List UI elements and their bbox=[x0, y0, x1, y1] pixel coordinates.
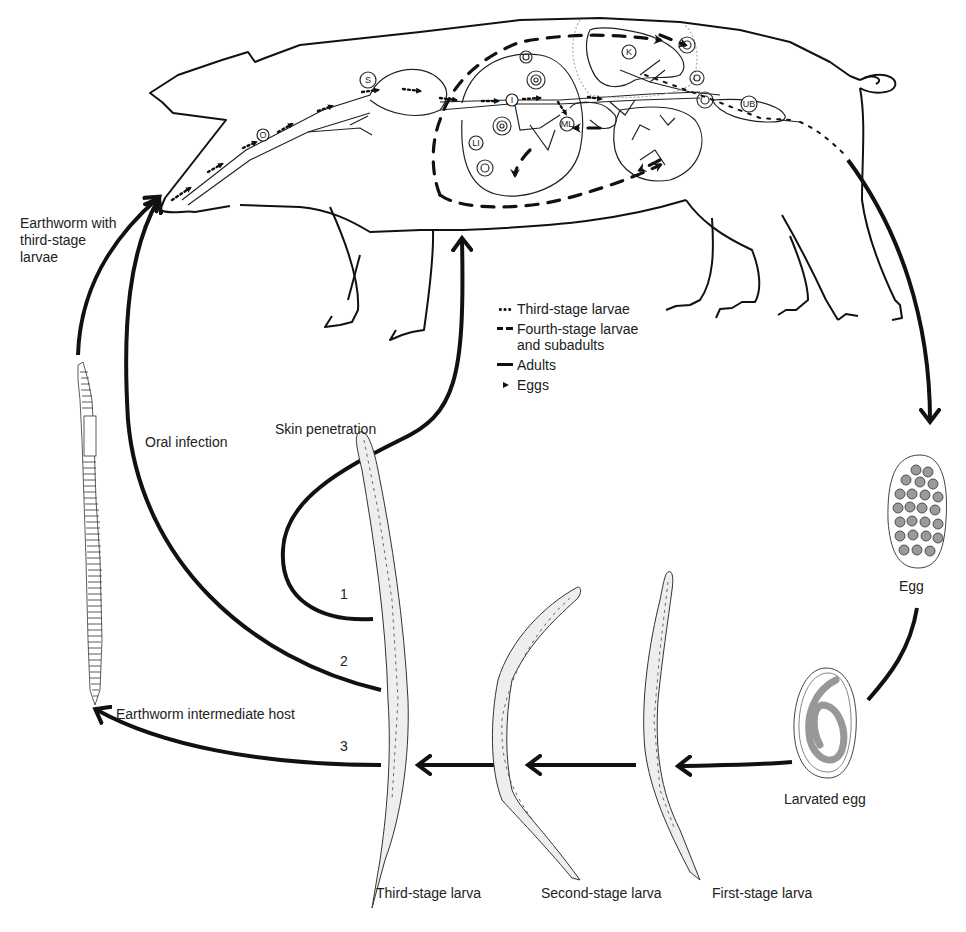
kidney bbox=[573, 20, 720, 98]
arrowhead-icon bbox=[497, 375, 517, 395]
legend-item-adults: Adults bbox=[497, 355, 638, 375]
svg-text:LI: LI bbox=[472, 138, 480, 148]
egg-path bbox=[645, 75, 845, 155]
svg-text:K: K bbox=[626, 47, 632, 57]
oral-infection-label: Oral infection bbox=[145, 434, 227, 451]
svg-text:UB: UB bbox=[743, 99, 756, 109]
legend-item-eggs: Eggs bbox=[497, 375, 638, 395]
skin-penetration-label: Skin penetration bbox=[275, 421, 376, 438]
route-number-1: 1 bbox=[340, 586, 348, 603]
solid-line-icon bbox=[497, 355, 517, 375]
legend-item-third-stage: Third-stage larvae bbox=[497, 299, 638, 319]
route-number-2: 2 bbox=[340, 653, 348, 670]
arrow-egg-to-larvated bbox=[868, 608, 917, 700]
second-stage-larva-illustration bbox=[492, 587, 580, 880]
legend: Third-stage larvae Fourth-stage larvae a… bbox=[497, 299, 638, 395]
first-stage-larva-label: First-stage larva bbox=[712, 885, 812, 902]
third-stage-larva-illustration bbox=[356, 432, 408, 908]
earthworm-illustration bbox=[78, 362, 102, 705]
dashed-line-icon bbox=[497, 319, 517, 339]
earthworm-with-larvae-label: Earthworm with third-stage larvae bbox=[20, 215, 140, 266]
svg-text:ML: ML bbox=[561, 119, 574, 129]
route-number-3: 3 bbox=[340, 738, 348, 755]
first-stage-larva-illustration bbox=[644, 572, 700, 880]
svg-text:I: I bbox=[511, 95, 514, 105]
arrow-larvated-to-first bbox=[680, 762, 792, 766]
svg-text:S: S bbox=[365, 75, 371, 85]
svg-text:O: O bbox=[259, 130, 266, 140]
organ-markers: O S I LI ML K UB bbox=[257, 45, 757, 150]
pig-outline bbox=[150, 18, 902, 340]
larvated-egg-illustration bbox=[794, 668, 856, 778]
third-stage-larvae-path bbox=[172, 89, 601, 200]
arrow-pig-to-egg bbox=[848, 160, 930, 420]
larvated-egg-label: Larvated egg bbox=[784, 791, 866, 808]
third-stage-larva-label: Third-stage larva bbox=[376, 885, 481, 902]
dotted-line-icon bbox=[497, 299, 517, 319]
egg-label: Egg bbox=[899, 578, 924, 595]
second-stage-larva-label: Second-stage larva bbox=[541, 885, 662, 902]
earthworm-host-label: Earthworm intermediate host bbox=[116, 706, 295, 723]
egg-illustration bbox=[888, 455, 947, 568]
